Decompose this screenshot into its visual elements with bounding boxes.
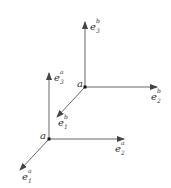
- origin-a-dot: [48, 138, 51, 141]
- label-e1-a: e a 1: [22, 172, 28, 182]
- label-e3-a: e a 3: [54, 73, 60, 83]
- origin-a-label: a: [40, 131, 46, 141]
- label-e3-b: e b 3: [90, 22, 96, 32]
- axis-e1-a: [20, 139, 49, 170]
- label-e2-a: e a 2: [115, 144, 121, 154]
- origin-b-label: a: [77, 79, 83, 89]
- label-e1-b: e b 1: [58, 118, 64, 128]
- coordinate-frames-diagram: a a e b 3 e b 2 e b 1 e a 3 e a 2 e a 1: [0, 0, 171, 188]
- frame-a: [20, 73, 124, 170]
- axes-drawing: [0, 0, 171, 188]
- label-e2-b: e b 2: [151, 92, 157, 102]
- axis-e1-b: [57, 87, 85, 117]
- frame-b: [57, 22, 157, 117]
- origin-b-dot: [84, 86, 87, 89]
